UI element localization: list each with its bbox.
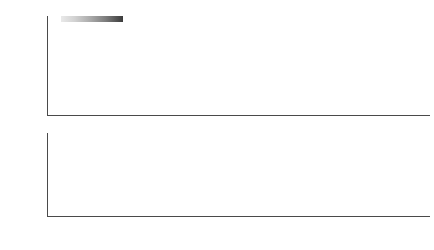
legend-national-interest-index (58, 14, 126, 22)
legend-gradient-bar (61, 16, 123, 22)
panel-cinc-index (0, 128, 434, 238)
y-axis-label-cinc (13, 132, 23, 218)
figure-container (0, 0, 434, 250)
panel-interventions (0, 4, 434, 122)
y-axis-label-interventions (13, 14, 23, 114)
legend-scale-row (58, 16, 126, 22)
plot-area-interventions (48, 16, 430, 115)
plot-area-cinc (48, 133, 430, 216)
